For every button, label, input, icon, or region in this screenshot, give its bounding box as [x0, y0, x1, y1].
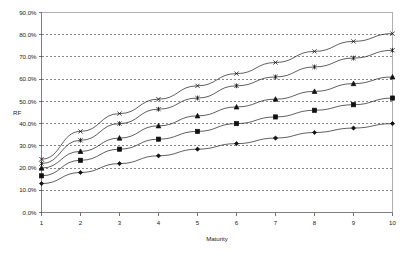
y-tick-label-90: 90.0% — [19, 9, 37, 16]
data-point-s4-x10 — [390, 96, 394, 100]
x-tick-label-5: 5 — [196, 219, 200, 226]
line-chart: false0.0%10.0%20.0%30.0%40.0%50.0%60.0%7… — [0, 0, 406, 256]
x-tick-label-7: 7 — [274, 219, 278, 226]
y-tick-label-10: 10.0% — [19, 186, 37, 193]
data-point-s4-x2 — [78, 158, 82, 162]
data-point-s4-x3 — [117, 147, 121, 151]
x-tick-label-4: 4 — [157, 219, 161, 226]
y-axis-title: RF — [13, 109, 21, 116]
x-tick-label-1: 1 — [40, 219, 44, 226]
x-tick-label-3: 3 — [118, 219, 122, 226]
x-tick-label-9: 9 — [352, 219, 356, 226]
y-tick-label-0: 0.0% — [23, 209, 37, 216]
data-point-s4-x5 — [195, 129, 199, 133]
y-tick-label-80: 80.0% — [19, 31, 37, 38]
data-point-s4-x1 — [39, 174, 43, 178]
data-point-s4-x8 — [312, 108, 316, 112]
x-tick-label-8: 8 — [313, 219, 317, 226]
y-tick-label-40: 40.0% — [19, 120, 37, 127]
data-point-s4-x9 — [351, 103, 355, 107]
x-axis-title: Maturity — [206, 235, 229, 242]
y-tick-label-70: 70.0% — [19, 53, 37, 60]
data-point-s4-x4 — [156, 137, 160, 141]
chart-canvas: false0.0%10.0%20.0%30.0%40.0%50.0%60.0%7… — [0, 0, 406, 256]
y-tick-label-20: 20.0% — [19, 164, 37, 171]
y-tick-label-50: 50.0% — [19, 98, 37, 105]
x-tick-label-2: 2 — [79, 219, 83, 226]
data-point-s4-x6 — [234, 122, 238, 126]
x-tick-label-6: 6 — [235, 219, 239, 226]
y-tick-label-60: 60.0% — [19, 75, 37, 82]
y-tick-label-30: 30.0% — [19, 142, 37, 149]
data-point-s4-x7 — [273, 115, 277, 119]
x-tick-label-10: 10 — [389, 219, 396, 226]
